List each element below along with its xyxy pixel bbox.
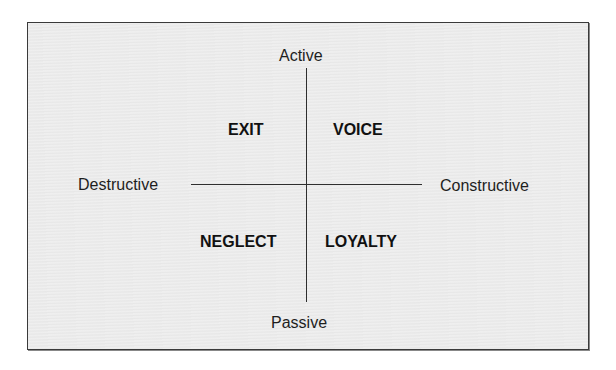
quadrant-voice: VOICE: [333, 122, 383, 138]
axis-label-active: Active: [279, 48, 323, 64]
axis-label-constructive: Constructive: [440, 178, 529, 194]
vertical-axis-line: [306, 68, 307, 302]
axis-label-destructive: Destructive: [78, 177, 158, 193]
quadrant-neglect: NEGLECT: [200, 234, 276, 250]
quadrant-exit: EXIT: [228, 122, 264, 138]
quadrant-loyalty: LOYALTY: [325, 234, 397, 250]
axis-label-passive: Passive: [271, 315, 327, 331]
